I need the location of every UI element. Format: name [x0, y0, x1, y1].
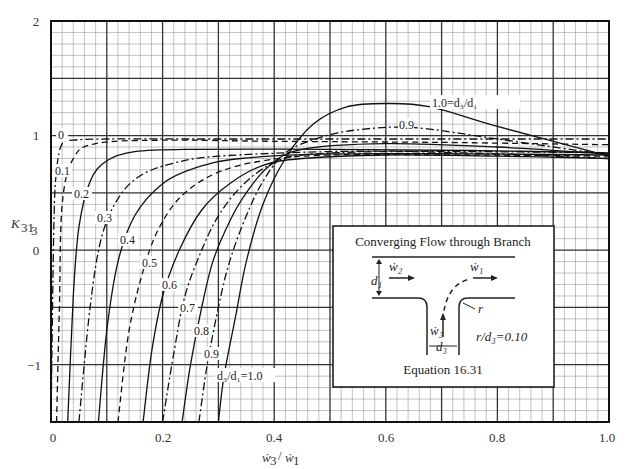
label-0.2: 0.2	[74, 187, 89, 201]
label-0: 0	[58, 128, 64, 142]
svg-text:3: 3	[270, 453, 277, 468]
inset-d3: d₃	[436, 339, 447, 354]
y-tick-0: 0	[33, 243, 40, 258]
label-0.3: 0.3	[97, 211, 112, 225]
svg-text:/: /	[278, 448, 282, 463]
label-0.5: 0.5	[142, 256, 157, 270]
label-1.0-top: 1.0=d₃/d₁	[432, 96, 477, 110]
label-0.6: 0.6	[162, 278, 177, 292]
label-0.8: 0.8	[194, 324, 209, 338]
inset-w2: ẇ₂	[389, 259, 403, 274]
label-d3d1-1.0: d₃/d₁=1.0	[217, 369, 262, 383]
y-tick-1: 1	[33, 128, 40, 143]
y-tick-2: 2	[33, 14, 40, 29]
x-tick-0.8: 0.8	[489, 430, 505, 445]
x-tick-0: 0	[50, 430, 57, 445]
inset-w1: ẇ₁	[470, 259, 483, 274]
svg-text:3: 3	[31, 223, 38, 238]
inset-title: Converging Flow through Branch	[355, 234, 531, 249]
inset-ratio: r/d₃=0.10	[476, 329, 528, 344]
inset-equation: Equation 16.31	[403, 362, 482, 377]
x-tick-1.0: 1.0	[599, 430, 615, 445]
label-0.9-top: 0.9	[399, 118, 414, 132]
label-0.4: 0.4	[120, 233, 135, 247]
label-0.9: 0.9	[204, 347, 219, 361]
svg-text:1: 1	[293, 453, 300, 468]
svg-text:K: K	[10, 216, 21, 231]
label-0.7: 0.7	[180, 301, 195, 315]
y-tick-minus1: −1	[27, 358, 41, 373]
inset-w3: ẇ₃	[430, 323, 443, 338]
x-tick-0.4: 0.4	[266, 430, 283, 445]
x-tick-0.2: 0.2	[155, 430, 171, 445]
x-axis-label: ẇ 3 / ẇ 1	[262, 448, 300, 468]
y-axis-label: K 31 3	[10, 216, 38, 238]
label-0.1: 0.1	[55, 164, 70, 178]
inset-diagram: Converging Flow through Branch d₁ ẇ₂ ẇ₁ …	[333, 226, 554, 387]
inset-d1: d₁	[371, 273, 382, 288]
x-tick-0.6: 0.6	[378, 430, 395, 445]
chart-figure: 2 1 0 −1 0 0.2 0.4 0.6 0.8 1.0 ẇ 3 / ẇ 1…	[0, 0, 627, 469]
